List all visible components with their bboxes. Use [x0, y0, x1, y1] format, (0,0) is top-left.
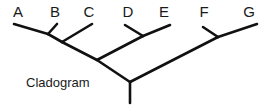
taxon-label-a: A [13, 4, 23, 19]
branch-c [62, 24, 92, 42]
taxon-label-f: F [199, 4, 208, 19]
taxon-label-e: E [159, 4, 169, 19]
branch-d [125, 25, 143, 36]
cladogram-tree-graphic [0, 0, 273, 107]
cladogram-figure: A B C D E F G Cladogram [0, 0, 273, 107]
taxon-label-b: B [50, 4, 60, 19]
branch-de-to-abcde [97, 36, 143, 60]
branch-e [143, 25, 170, 36]
branch-ab-to-abc [48, 34, 62, 42]
branch-f [203, 27, 218, 37]
cladogram-caption: Cladogram [26, 76, 90, 89]
branch-abcde-to-root [97, 60, 130, 82]
branch-g [218, 24, 257, 37]
branch-abc-to-abcde [62, 42, 97, 60]
taxon-label-c: C [84, 4, 95, 19]
taxon-label-d: D [123, 4, 134, 19]
branch-fg-to-root [130, 37, 218, 82]
branch-b [48, 24, 57, 34]
branch-a [14, 24, 48, 34]
taxon-label-g: G [243, 4, 255, 19]
